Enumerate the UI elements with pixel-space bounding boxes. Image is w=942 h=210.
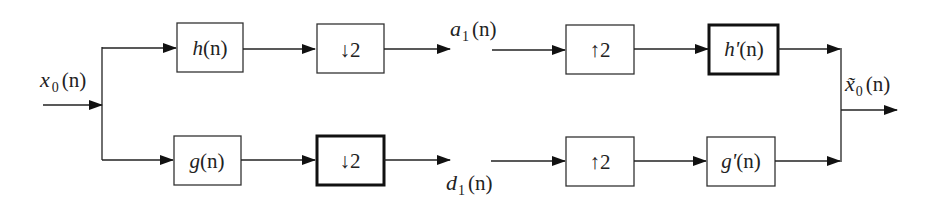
svg-text:↓2: ↓2 <box>340 149 361 173</box>
input-label: x0(n) <box>39 67 86 95</box>
svg-text:h(n): h(n) <box>193 36 228 60</box>
a1-label: a1(n) <box>450 16 497 44</box>
svg-text:↑2: ↑2 <box>590 150 611 174</box>
upsample-bottom-block: ↑2 <box>566 137 634 186</box>
up-arrow-icon: ↑ <box>590 38 601 62</box>
g-prime-filter-block: g'(n) <box>707 137 775 186</box>
svg-text:g(n): g(n) <box>190 149 225 173</box>
g-filter-block: g(n) <box>174 136 241 185</box>
svg-text:↓2: ↓2 <box>340 38 361 62</box>
svg-text:g'(n): g'(n) <box>721 149 761 173</box>
output-label: x̃0(n) <box>844 71 890 99</box>
d1-label: d1(n) <box>446 170 493 198</box>
up-arrow-icon: ↑ <box>590 150 601 174</box>
down-arrow-icon: ↓ <box>340 149 351 173</box>
svg-text:h'(n): h'(n) <box>724 37 764 61</box>
down-arrow-icon: ↓ <box>340 38 351 62</box>
h-prime-filter-block: h'(n) <box>709 25 778 74</box>
output-wire <box>841 48 897 162</box>
h-filter-block: h(n) <box>177 23 243 72</box>
downsample-top-block: ↓2 <box>317 24 384 73</box>
downsample-bottom-block: ↓2 <box>317 136 384 185</box>
svg-text:↑2: ↑2 <box>590 38 611 62</box>
filter-bank-diagram: x0(n) h(n) g(n) ↓2 ↓2 a1(n) d1(n) ↑2 ↑2 <box>0 0 942 210</box>
upsample-top-block: ↑2 <box>566 25 634 74</box>
input-wire <box>43 47 176 160</box>
